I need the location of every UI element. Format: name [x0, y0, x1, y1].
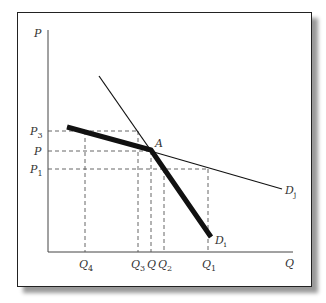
price-label-p1: P1 — [29, 163, 43, 178]
y-axis-label: P — [33, 27, 42, 40]
price-label-p3: P3 — [29, 125, 43, 140]
x-axis-label: Q — [285, 257, 294, 270]
kinked-demand-curve — [67, 127, 211, 237]
curve-label-di: Di — [214, 234, 227, 249]
quantity-label-q1: Q1 — [202, 258, 216, 273]
curve-label-dj: Dj — [284, 184, 296, 199]
price-guides — [48, 131, 208, 169]
kink-point-label: A — [154, 137, 163, 150]
kinked-demand-diagram: P Q P3 P P1 Q4 Q3 Q Q2 Q1 A Dj Di — [0, 0, 326, 303]
quantity-label-q2: Q2 — [158, 258, 172, 273]
price-label-p: P — [33, 145, 42, 158]
quantity-label-q3: Q3 — [131, 258, 145, 273]
quantity-label-q4: Q4 — [79, 258, 93, 273]
quantity-label-q: Q — [147, 258, 156, 271]
